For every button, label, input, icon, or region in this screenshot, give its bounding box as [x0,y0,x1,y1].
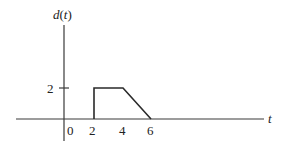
y-axis-label: d(t) [53,7,72,22]
y-tick-label-2: 2 [47,81,54,96]
chart-canvas: 2 0 2 4 6 t d(t) [0,0,290,145]
x-tick-label-0: 0 [67,123,74,138]
x-tick-label-6: 6 [147,123,154,138]
x-tick-label-2: 2 [89,123,96,138]
x-axis-label: t [268,111,272,126]
signal-trace [94,88,151,119]
x-tick-label-4: 4 [119,123,126,138]
